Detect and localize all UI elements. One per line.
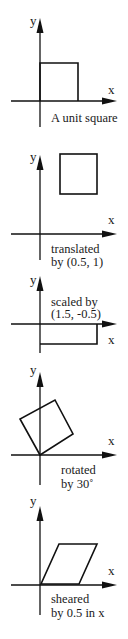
x-axis-label: x	[108, 563, 115, 578]
y-axis-arrow-icon	[37, 155, 44, 170]
x-axis-arrow-icon	[102, 98, 117, 105]
caption-line-1: translated	[51, 242, 100, 256]
x-axis-arrow-icon	[102, 452, 117, 459]
x-axis-label: x	[108, 433, 115, 448]
panel-rotated: y x rotated by 30˚	[11, 362, 117, 491]
x-axis-label: x	[108, 332, 115, 347]
x-axis-arrow-icon	[102, 582, 117, 589]
x-axis-arrow-icon	[102, 231, 117, 238]
unit-square-shape	[40, 63, 78, 101]
y-axis-label: y	[30, 13, 37, 28]
translated-square-shape	[60, 154, 97, 194]
y-axis-label: y	[30, 362, 37, 377]
panel-translated: y x translated by (0.5, 1)	[11, 149, 117, 269]
y-axis-label: y	[30, 272, 37, 287]
y-axis-arrow-icon	[37, 276, 44, 291]
caption-line-2: by (0.5, 1)	[51, 255, 103, 269]
x-axis-arrow-icon	[102, 321, 117, 328]
x-axis-label: x	[108, 82, 115, 97]
caption-line-2: (1.5, -0.5)	[51, 307, 101, 321]
x-axis-label: x	[108, 212, 115, 227]
panel-sheared: y x sheared by 0.5 in x	[11, 493, 117, 620]
caption-line-2: by 0.5 in x	[51, 606, 105, 620]
y-axis-label: y	[30, 493, 37, 508]
scaled-rectangle-shape	[40, 324, 97, 344]
rotated-square-shape	[20, 400, 73, 455]
caption-line-1: rotated	[61, 463, 96, 477]
caption-line-1: A unit square	[51, 111, 118, 125]
y-axis-arrow-icon	[37, 506, 44, 521]
y-axis-arrow-icon	[37, 18, 44, 33]
panel-unit-square: y x A unit square	[11, 13, 118, 127]
y-axis-label: y	[30, 149, 37, 164]
caption-line-2: by 30˚	[61, 477, 93, 491]
caption-line-1: sheared	[51, 592, 90, 606]
sheared-parallelogram-shape	[41, 544, 97, 584]
panel-scaled: y x scaled by (1.5, -0.5)	[11, 272, 117, 353]
y-axis-arrow-icon	[37, 372, 44, 387]
transformations-diagram: y x A unit square y x translated by (0.5…	[0, 0, 128, 639]
